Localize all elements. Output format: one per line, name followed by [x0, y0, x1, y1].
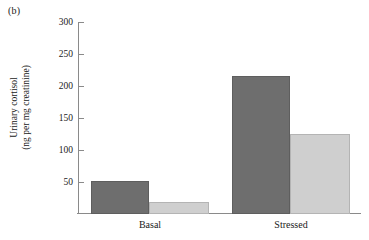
y-axis-tick-label: 300 [59, 17, 73, 27]
y-axis-tick: 100 [79, 150, 84, 151]
y-axis-tick: 150 [79, 118, 84, 119]
y-axis-tick: 300 [79, 22, 84, 23]
bar-stressed-dark [232, 76, 290, 214]
y-axis-title-line2: (ng per mg creatinine) [20, 65, 32, 150]
x-axis-label-basal: Basal [139, 219, 161, 230]
y-axis-tick: 250 [79, 54, 84, 55]
y-axis-title: Urinary cortisol (ng per mg creatinine) [0, 0, 40, 214]
y-axis-tick: 200 [79, 86, 84, 87]
y-axis-title-line1: Urinary cortisol [9, 77, 19, 137]
bar-basal-dark [91, 181, 149, 214]
plot-area: 50100150200250300 BasalStressed [78, 14, 361, 214]
y-axis-tick-label: 50 [64, 177, 74, 187]
bar-stressed-light [290, 134, 350, 214]
y-axis-tick-label: 200 [59, 81, 73, 91]
y-axis-tick: 50 [79, 182, 84, 183]
bar-basal-light [149, 202, 209, 214]
x-axis-label-stressed: Stressed [274, 219, 307, 230]
y-axis-tick-label: 250 [59, 49, 73, 59]
y-axis-tick-label: 150 [59, 113, 73, 123]
figure-panel-b: (b) Urinary cortisol (ng per mg creatini… [0, 0, 369, 240]
y-axis-tick-label: 100 [59, 145, 73, 155]
